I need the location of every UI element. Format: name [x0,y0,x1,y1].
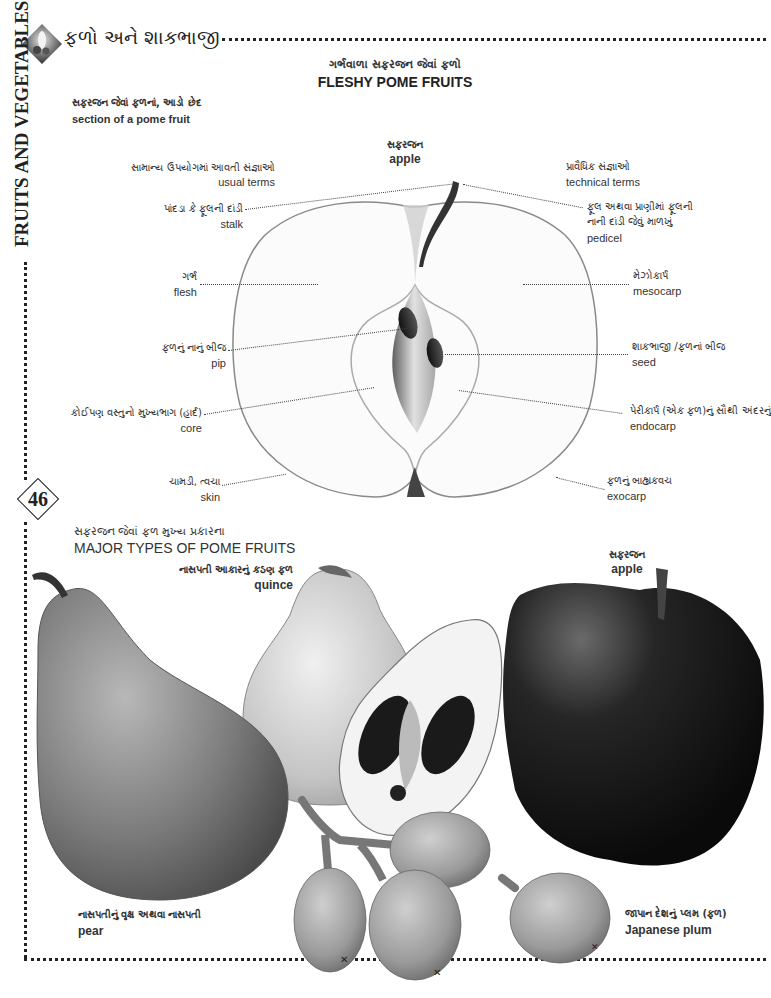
page-number: 46 [19,480,57,518]
pedicel-label-en: pedicel [587,232,622,244]
apple-label-gu: સફરજન [377,139,433,151]
side-divider-top [24,262,27,480]
mesocarp-leader [523,284,629,285]
flesh-leader [200,284,318,285]
types-title-gu: સફરજન જેવાં ફળ મુખ્ય પ્રકારના [74,525,225,538]
seed-label-gu: શાકભાજી /ફળનાં બીજ [632,341,725,353]
pedicel-label-gu2: નાની દાંડી જેવું માળખું [587,216,672,228]
apple-label-en: apple [377,152,433,166]
mesocarp-label-en: mesocarp [633,285,681,297]
japanese-plum-label-gu: જાપાન દેશનું પ્લમ (ફળ) [625,908,727,920]
exocarp-label-gu: ફળનું બાહ્યકવચ [607,475,672,487]
usual-terms-en: usual terms [90,176,275,188]
header-title: ફળો અને શાકભાજી [64,26,220,49]
skin-label-gu: ચામડી, ત્વચા [100,476,220,488]
svg-text:✕: ✕ [340,954,348,965]
main-title-gu: ગર્ભવાળા સફરજન જેવાં ફળો [300,58,490,71]
pip-label-gu: ફળનું નાનું બીજ [80,342,226,354]
stalk-label-gu: પાંદડા કે ફૂલની દાંડી [80,203,243,215]
mesocarp-label-gu: મેઝોકાર્પ [633,270,668,282]
pip-label-en: pip [80,357,226,369]
flesh-label-en: flesh [80,286,197,298]
technical-terms-gu: પ્રાવૈધિક સંજ્ઞાઓ [566,161,630,173]
main-title-en: FLESHY POME FRUITS [300,74,490,90]
types-title-en: MAJOR TYPES OF POME FRUITS [74,540,295,556]
japanese-plum-label-en: Japanese plum [625,923,712,937]
pear-label-en: pear [78,924,103,938]
exocarp-label-en: exocarp [607,490,646,502]
stalk-label-en: stalk [80,218,243,230]
flesh-label-gu: ગર્ભ [80,271,197,283]
svg-text:✕: ✕ [591,942,599,952]
usual-terms-gu: સામાન્ય ઉપયોગમાં આવતી સંજ્ઞાઓ [90,162,275,174]
side-title: FRUITS AND VEGETABLES [2,58,42,258]
core-label-gu: કોઈપણ વસ્તુનો મુખ્યભાગ (હાર્દ) [40,407,202,419]
pear-label-gu: નાસપતીનું વૃક્ષ અથવા નાસપતી [78,909,201,921]
endocarp-label-gu: પેરીકાર્પ (એક ફળ)નું સૌથી અંદરનું [630,405,771,417]
skin-label-en: skin [100,491,220,503]
seed-label-en: seed [632,356,656,368]
section-cut-title-gu: સફરજન જેવાં ફળનાં, આડો છેદ [72,97,202,109]
pedicel-label-gu: ફૂલ અથવા પ્રાણીમાં ફૂલની [587,201,693,213]
technical-terms-en: technical terms [566,176,640,188]
header-divider [222,38,766,41]
endocarp-label-en: endocarp [630,420,676,432]
core-label-en: core [40,422,202,434]
apple-cross-section-diagram [225,175,605,505]
seed-leader [445,354,628,355]
svg-text:✕: ✕ [433,967,441,978]
section-cut-title-en: section of a pome fruit [72,113,190,125]
